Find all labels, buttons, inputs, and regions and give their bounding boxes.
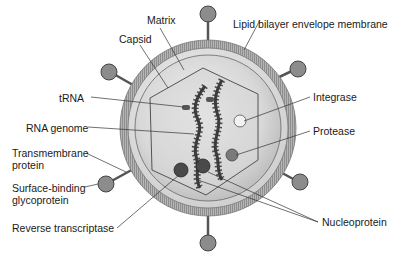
trna-marker <box>206 97 214 102</box>
label-nucleoprotein: Nucleoprotein <box>322 216 387 228</box>
label-surface-glycoprotein: Surface-binding glycoprotein <box>12 182 86 206</box>
label-glycoprotein-line1: Surface-binding <box>12 182 86 194</box>
label-capsid: Capsid <box>119 33 152 45</box>
label-lipid-envelope: Lipid bilayer envelope membrane <box>233 18 388 30</box>
reverse-transcriptase-particle <box>174 163 188 177</box>
label-protease: Protease <box>313 125 355 137</box>
label-trna: tRNA <box>59 92 84 104</box>
virion-diagram: Matrix Capsid Lipid bilayer envelope mem… <box>0 0 398 260</box>
label-matrix: Matrix <box>147 14 176 26</box>
label-glycoprotein-line2: glycoprotein <box>12 194 86 206</box>
label-transmembrane-line2: protein <box>12 159 89 171</box>
label-integrase: Integrase <box>313 91 357 103</box>
label-transmembrane-protein: Transmembrane protein <box>12 147 89 171</box>
trna-marker <box>182 105 190 110</box>
label-reverse-transcriptase: Reverse transcriptase <box>12 222 114 234</box>
nucleoprotein-particle <box>196 159 210 173</box>
label-transmembrane-line1: Transmembrane <box>12 147 89 159</box>
label-rna-genome: RNA genome <box>26 122 88 134</box>
